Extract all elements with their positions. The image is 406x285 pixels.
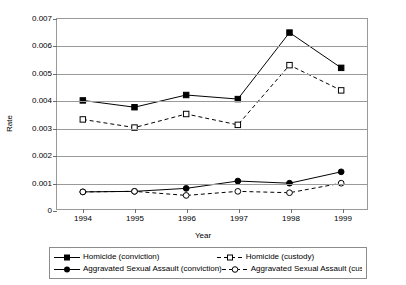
x-axis-tick-label: 1996 (178, 215, 196, 223)
y-axis-tick-mark (53, 156, 57, 157)
series-line (83, 33, 341, 108)
gridline (57, 74, 367, 75)
chart-legend: Homicide (conviction) Homicide (custody)… (49, 247, 367, 279)
legend-entry-assault-custody: Aggravated Sexual Assault (custody) (222, 265, 362, 274)
data-point-marker (183, 92, 188, 97)
x-axis-tick-mark (135, 209, 136, 213)
data-point-marker (287, 30, 292, 35)
legend-entry-assault-conviction: Aggravated Sexual Assault (conviction) (54, 265, 222, 274)
legend-marker-filled-circle (54, 265, 80, 274)
data-point-marker (338, 88, 343, 93)
gridline (57, 46, 367, 47)
data-point-marker (183, 193, 189, 199)
data-point-marker (132, 188, 138, 194)
y-axis-tick-mark (53, 74, 57, 75)
x-axis-title: Year (0, 232, 406, 240)
legend-entry-homicide-custody: Homicide (custody) (217, 253, 362, 262)
data-point-marker (287, 62, 292, 67)
data-point-marker (287, 190, 293, 196)
data-point-marker (338, 65, 343, 70)
series-line (83, 172, 341, 192)
legend-label: Aggravated Sexual Assault (custody) (251, 265, 362, 273)
y-axis-title: Rate (6, 115, 14, 132)
y-axis-tick-mark (53, 101, 57, 102)
y-axis-tick-mark (53, 46, 57, 47)
data-point-marker (183, 186, 189, 192)
x-axis-tick-label: 1997 (230, 215, 248, 223)
legend-label: Homicide (custody) (246, 253, 314, 261)
data-point-marker (80, 189, 86, 195)
y-axis-tick-mark (53, 184, 57, 185)
series-layer (57, 19, 367, 209)
x-axis-tick-mark (187, 209, 188, 213)
x-axis-tick-mark (291, 209, 292, 213)
x-axis-tick-label: 1998 (282, 215, 300, 223)
data-point-marker (338, 169, 344, 175)
legend-marker-filled-square (54, 253, 80, 262)
y-axis-tick-mark (53, 19, 57, 20)
data-point-marker (183, 111, 188, 116)
legend-marker-open-square (217, 253, 243, 262)
x-axis-tick-label: 1995 (126, 215, 144, 223)
legend-label: Aggravated Sexual Assault (conviction) (83, 265, 222, 273)
line-chart: Rate 00.0010.0020.0030.0040.0050.0060.00… (0, 0, 406, 285)
x-axis-tick-label: 1994 (74, 215, 92, 223)
x-axis-tick-label: 1999 (334, 215, 352, 223)
data-point-marker (132, 104, 137, 109)
legend-row: Aggravated Sexual Assault (conviction) A… (54, 263, 362, 275)
gridline (57, 101, 367, 102)
gridline (57, 129, 367, 130)
x-axis-tick-mark (83, 209, 84, 213)
legend-row: Homicide (conviction) Homicide (custody) (54, 251, 362, 263)
x-axis-tick-mark (343, 209, 344, 213)
legend-marker-open-circle (222, 265, 248, 274)
y-axis-tick-mark (53, 211, 57, 212)
data-point-marker (235, 188, 241, 194)
gridline (57, 156, 367, 157)
legend-label: Homicide (conviction) (83, 253, 159, 261)
legend-entry-homicide-conviction: Homicide (conviction) (54, 253, 217, 262)
data-point-marker (80, 117, 85, 122)
x-axis-tick-mark (239, 209, 240, 213)
gridline (57, 184, 367, 185)
plot-area: 00.0010.0020.0030.0040.0050.0060.0071994… (56, 18, 368, 210)
y-axis-tick-mark (53, 129, 57, 130)
data-point-marker (235, 122, 240, 127)
